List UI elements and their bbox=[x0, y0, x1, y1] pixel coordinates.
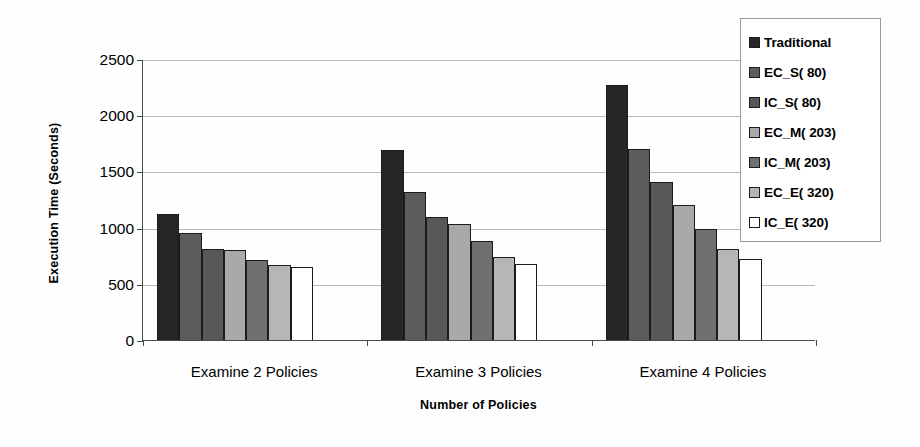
bar-chart: Execution Time (Seconds) 050010001500200… bbox=[0, 0, 920, 447]
y-axis-tick-label: 0 bbox=[74, 332, 134, 350]
bar[interactable] bbox=[606, 85, 628, 340]
legend-item[interactable]: Traditional bbox=[749, 27, 880, 57]
x-axis-tick-label: Examine 4 Policies bbox=[591, 363, 815, 380]
legend-item[interactable]: IC_M( 203) bbox=[749, 147, 880, 177]
legend-item[interactable]: IC_S( 80) bbox=[749, 87, 880, 117]
legend-item-label: IC_S( 80) bbox=[764, 95, 821, 110]
legend-item-label: EC_E( 320) bbox=[764, 185, 834, 200]
bar[interactable] bbox=[179, 233, 201, 340]
legend-item-label: IC_M( 203) bbox=[764, 155, 831, 170]
x-axis-tick bbox=[816, 340, 817, 346]
bar[interactable] bbox=[673, 205, 695, 340]
legend-swatch-icon bbox=[749, 217, 760, 228]
y-axis-tick-labels: 05001000150020002500 bbox=[66, 60, 134, 341]
x-axis-tick-label: Examine 3 Policies bbox=[366, 363, 590, 380]
legend-swatch-icon bbox=[749, 127, 760, 138]
bar[interactable] bbox=[426, 217, 448, 340]
bar[interactable] bbox=[717, 249, 739, 340]
legend-item-label: Traditional bbox=[764, 35, 831, 50]
legend-swatch-icon bbox=[749, 187, 760, 198]
bar[interactable] bbox=[404, 192, 426, 340]
y-axis-tick-label: 1500 bbox=[74, 163, 134, 181]
y-axis-tick-label: 1000 bbox=[74, 220, 134, 238]
bar-group bbox=[606, 60, 762, 340]
bar[interactable] bbox=[202, 249, 224, 340]
bar[interactable] bbox=[739, 259, 761, 340]
bar[interactable] bbox=[515, 264, 537, 340]
legend-swatch-icon bbox=[749, 97, 760, 108]
y-axis-title: Execution Time (Seconds) bbox=[47, 53, 61, 353]
bar[interactable] bbox=[246, 260, 268, 340]
bar-group bbox=[381, 60, 537, 340]
x-axis-tick bbox=[367, 340, 368, 346]
legend-item[interactable]: IC_E( 320) bbox=[749, 207, 880, 237]
bar[interactable] bbox=[381, 150, 403, 340]
bar[interactable] bbox=[471, 241, 493, 340]
bar[interactable] bbox=[448, 224, 470, 340]
x-axis-tick bbox=[592, 340, 593, 346]
legend-swatch-icon bbox=[749, 157, 760, 168]
bar[interactable] bbox=[650, 182, 672, 340]
legend-item-label: EC_M( 203) bbox=[764, 125, 836, 140]
chart-legend: TraditionalEC_S( 80)IC_S( 80)EC_M( 203)I… bbox=[740, 18, 881, 242]
x-axis-title: Number of Policies bbox=[142, 398, 815, 412]
y-axis-tick-label: 500 bbox=[74, 276, 134, 294]
bar[interactable] bbox=[493, 257, 515, 340]
bar[interactable] bbox=[628, 149, 650, 340]
legend-item-label: IC_E( 320) bbox=[764, 215, 828, 230]
bar[interactable] bbox=[224, 250, 246, 340]
x-axis-tick bbox=[143, 340, 144, 346]
legend-item[interactable]: EC_E( 320) bbox=[749, 177, 880, 207]
legend-swatch-icon bbox=[749, 37, 760, 48]
legend-swatch-icon bbox=[749, 67, 760, 78]
bar[interactable] bbox=[291, 267, 313, 340]
bar-group bbox=[157, 60, 313, 340]
y-axis-tick-label: 2500 bbox=[74, 51, 134, 69]
legend-item[interactable]: EC_M( 203) bbox=[749, 117, 880, 147]
legend-item[interactable]: EC_S( 80) bbox=[749, 57, 880, 87]
bar[interactable] bbox=[268, 265, 290, 340]
y-axis-tick-label: 2000 bbox=[74, 107, 134, 125]
bars-layer bbox=[143, 60, 815, 340]
x-axis-tick-label: Examine 2 Policies bbox=[142, 363, 366, 380]
bar[interactable] bbox=[157, 214, 179, 340]
plot-area bbox=[142, 60, 815, 341]
legend-item-label: EC_S( 80) bbox=[764, 65, 826, 80]
bar[interactable] bbox=[695, 229, 717, 340]
